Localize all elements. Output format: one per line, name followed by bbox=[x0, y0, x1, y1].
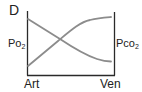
chart-plot bbox=[0, 0, 142, 92]
axes bbox=[27, 11, 115, 76]
